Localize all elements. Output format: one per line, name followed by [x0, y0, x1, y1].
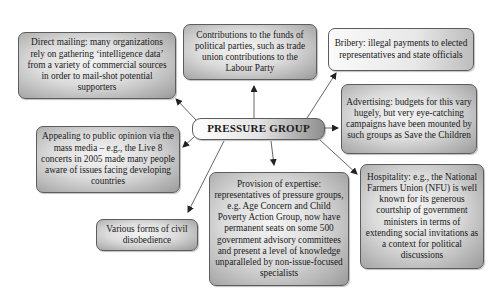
- node-bribery: Bribery: illegal payments to elected rep…: [328, 28, 474, 71]
- node-text: Advertising: budgets for this vary hugel…: [346, 97, 472, 142]
- node-text: Bribery: illegal payments to elected rep…: [333, 38, 469, 60]
- node-text: Various forms of civil disobedience: [101, 224, 193, 246]
- node-advertising: Advertising: budgets for this vary hugel…: [341, 84, 477, 154]
- node-contributions: Contributions to the funds of political …: [183, 24, 317, 80]
- node-direct-mailing: Direct mailing: many organizations rely …: [18, 32, 176, 99]
- center-node-pressure-group: PRESSURE GROUP: [192, 118, 325, 140]
- node-text: Contributions to the funds of political …: [188, 30, 312, 75]
- node-text: Direct mailing: many organizations rely …: [23, 37, 171, 93]
- node-civil-disobedience: Various forms of civil disobedience: [96, 219, 198, 251]
- node-text: Hospitality: e.g., the National Farmers …: [365, 172, 479, 262]
- node-hospitality: Hospitality: e.g., the National Farmers …: [360, 164, 484, 269]
- node-text: Provision of expertise: representatives …: [214, 179, 344, 280]
- center-label: PRESSURE GROUP: [207, 123, 310, 134]
- node-expertise: Provision of expertise: representatives …: [209, 172, 349, 286]
- node-public-opinion: Appealing to public opinion via the mass…: [36, 126, 180, 193]
- node-text: Appealing to public opinion via the mass…: [41, 131, 175, 187]
